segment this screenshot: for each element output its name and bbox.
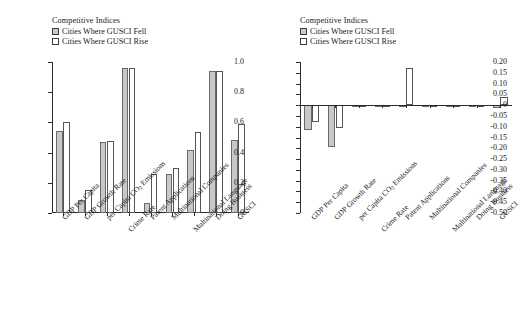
y-tick [296,191,300,192]
legend-item-gusci-rise-right: Cities Where GUSCI Rise [300,37,396,46]
x-tick [312,105,313,108]
x-tick [359,105,360,108]
y-tick-label: 0.15 [493,69,507,77]
legend-swatch-rise-icon [52,38,59,45]
legend-label-rise: Cities Where GUSCI Rise [62,37,148,46]
y-tick [48,153,52,154]
y-tick-label: -0.30 [490,166,507,174]
plot-area-left: 00.20.40.60.81.0 [52,62,249,213]
y-tick-label: 0.20 [493,58,507,66]
legend-left: Competitive Indices Cities Where GUSCI F… [52,16,148,46]
y-tick [296,116,300,117]
bar-rise [312,105,319,122]
legend-item-gusci-fell-right: Cities Where GUSCI Fell [300,27,396,36]
legend-swatch-fell-icon-right [300,28,307,35]
x-tick [453,105,454,108]
y-tick-label: -0.20 [490,144,507,152]
x-tick [477,105,478,108]
bar-rise [406,68,413,105]
y-tick [296,170,300,171]
y-tick [296,62,300,63]
legend-swatch-rise-icon-right [300,38,307,45]
bar-fell [209,71,216,213]
y-tick-label: 0.6 [234,118,244,126]
y-tick-label: -0.05 [490,112,507,120]
legend-label-fell: Cities Where GUSCI Fell [62,27,146,36]
y-tick [296,127,300,128]
y-tick-label: 0.10 [493,80,507,88]
plot-area-right: 0.200.150.100.050-0.05-0.10-0.15-0.20-0.… [300,62,512,213]
x-tick [335,105,336,108]
x-tick [382,105,383,108]
bar-rise [216,71,223,213]
bar-rise [336,105,343,128]
y-tick-label: 0.05 [493,90,507,98]
bar-group-right [300,62,512,213]
legend-title: Competitive Indices [52,16,148,25]
legend-swatch-fell-icon [52,28,59,35]
legend-label-fell-right: Cities Where GUSCI Fell [310,27,394,36]
bar-group-left [52,62,249,213]
y-tick [296,181,300,182]
y-tick-label: -0.10 [490,123,507,131]
y-tick [296,84,300,85]
figure-two-panel-bar-charts: Competitive Indices Cities Where GUSCI F… [0,0,525,315]
y-tick [48,183,52,184]
y-tick [296,73,300,74]
y-tick [48,92,52,93]
legend-right: Competitive Indices Cities Where GUSCI F… [300,16,396,46]
legend-item-gusci-fell: Cities Where GUSCI Fell [52,27,148,36]
y-tick-label: 1.0 [234,58,244,66]
y-tick [48,122,52,123]
x-tick [194,213,195,216]
y-tick [296,202,300,203]
y-tick [296,138,300,139]
y-tick-label: -0.15 [490,134,507,142]
y-tick [48,213,52,214]
y-tick-label: 0.8 [234,88,244,96]
chart-panel-left: Competitive Indices Cities Where GUSCI F… [0,0,262,315]
legend-title-right: Competitive Indices [300,16,396,25]
bar-fell [304,105,311,130]
y-tick [296,159,300,160]
y-tick-label: 0.4 [234,149,244,157]
bar-fell [328,105,335,147]
x-tick [406,105,407,108]
legend-item-gusci-rise: Cities Where GUSCI Rise [52,37,148,46]
y-tick [296,94,300,95]
y-tick-label: -0.25 [490,155,507,163]
y-tick [296,148,300,149]
x-tick [129,213,130,216]
bar-fell [56,131,63,213]
y-tick [48,62,52,63]
x-tick [430,105,431,108]
x-tick [500,105,501,108]
chart-panel-right: Competitive Indices Cities Where GUSCI F… [262,0,524,315]
legend-label-rise-right: Cities Where GUSCI Rise [310,37,396,46]
bar-rise [63,122,70,213]
y-tick [296,213,300,214]
